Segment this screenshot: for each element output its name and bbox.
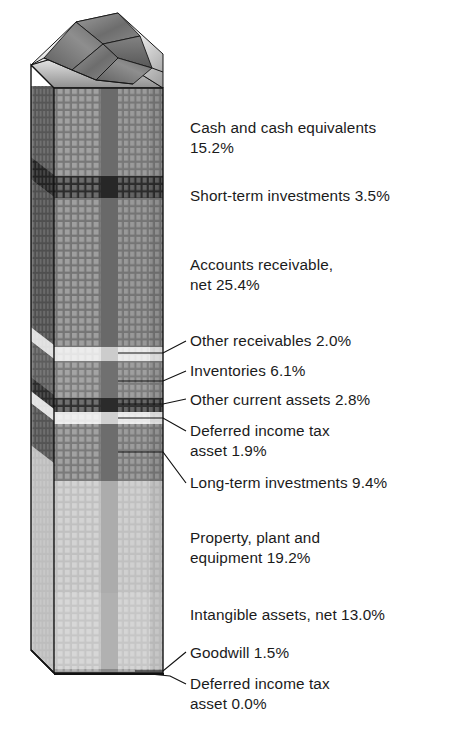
legend-item-inventories: Inventories 6.1% (190, 361, 306, 381)
legend-item-cash-and-cash-equivalents: Cash and cash equivalents 15.2% (190, 118, 376, 157)
figure-canvas: Cash and cash equivalents 15.2% Short-te… (0, 0, 457, 736)
legend-item-other-current-assets: Other current assets 2.8% (190, 390, 370, 410)
legend-item-accounts-receivable-net: Accounts receivable, net 25.4% (190, 255, 333, 294)
legend-item-deferred-income-tax-asset-2: Deferred income tax asset 0.0% (190, 674, 330, 713)
legend-item-deferred-income-tax-asset-1: Deferred income tax asset 1.9% (190, 421, 330, 460)
legend-item-other-receivables: Other receivables 2.0% (190, 331, 351, 351)
legend-labels: Cash and cash equivalents 15.2% Short-te… (0, 0, 457, 736)
legend-item-intangible-assets-net: Intangible assets, net 13.0% (190, 605, 385, 625)
legend-item-short-term-investments: Short-term investments 3.5% (190, 186, 390, 206)
legend-item-goodwill: Goodwill 1.5% (190, 643, 289, 663)
legend-item-long-term-investments: Long-term investments 9.4% (190, 473, 387, 493)
legend-item-property-plant-and-equipment: Property, plant and equipment 19.2% (190, 528, 320, 567)
